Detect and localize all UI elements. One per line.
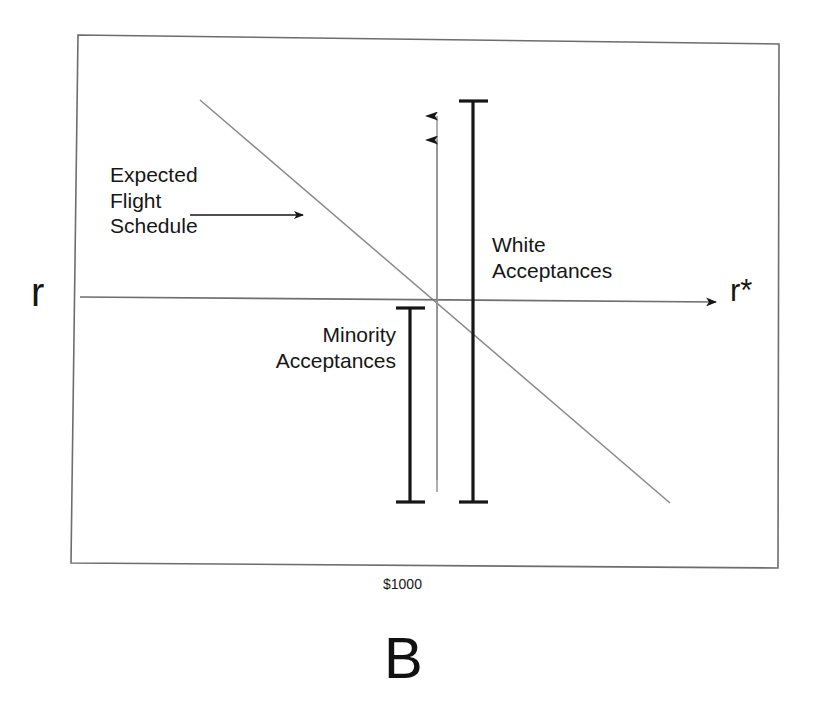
figure-label-b: B: [384, 623, 423, 694]
annotation-expected-flight-schedule: Expected Flight Schedule: [110, 162, 198, 239]
axis-label-r: r: [31, 268, 44, 317]
figure-container: Expected Flight Schedule White Acceptanc…: [0, 0, 815, 710]
minority-acceptances-bracket: [396, 307, 425, 503]
annotation-minority-acceptances: Minority Acceptances: [248, 322, 396, 373]
caption-dollar-amount: $1000: [383, 576, 422, 593]
figure-drawing: [0, 0, 815, 710]
axis-label-r-star: r*: [730, 272, 752, 310]
horizontal-axis: [80, 297, 716, 302]
white-acceptances-bracket: [459, 100, 488, 503]
annotation-white-acceptances: White Acceptances: [492, 232, 612, 283]
